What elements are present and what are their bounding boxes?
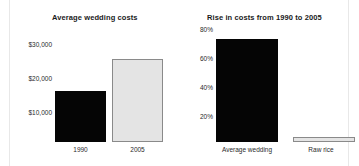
y-axis-labels: 80% 60% 40% 20% xyxy=(185,0,213,166)
y-tick-label: 60% xyxy=(187,55,213,62)
x-tick-label-average-wedding: Average wedding xyxy=(208,146,286,153)
y-tick-label: $10,000 xyxy=(10,109,52,116)
bar-raw-rice[interactable] xyxy=(293,137,355,142)
y-tick-label: $30,000 xyxy=(10,41,52,48)
x-tick-label-1990: 1990 xyxy=(55,146,106,153)
chart-average-wedding-costs: Average wedding costs $30,000 $20,000 $1… xyxy=(0,0,180,166)
y-tick-label: $20,000 xyxy=(10,75,52,82)
y-tick-label: 80% xyxy=(187,26,213,33)
chart-title: Rise in costs from 1990 to 2005 xyxy=(207,13,322,22)
plot-area xyxy=(216,24,346,142)
chart-title: Average wedding costs xyxy=(52,13,138,22)
y-tick-label: 40% xyxy=(187,84,213,91)
figure-canvas: Average wedding costs $30,000 $20,000 $1… xyxy=(0,0,359,166)
y-tick-label: 20% xyxy=(187,113,213,120)
x-tick-label-2005: 2005 xyxy=(112,146,163,153)
bar-average-wedding[interactable] xyxy=(216,39,278,142)
y-axis-labels: $30,000 $20,000 $10,000 xyxy=(8,0,52,166)
chart-rise-in-costs: Rise in costs from 1990 to 2005 80% 60% … xyxy=(180,0,359,166)
plot-area xyxy=(55,30,161,142)
x-tick-label-raw-rice: Raw rice xyxy=(290,146,352,153)
bar-2005[interactable] xyxy=(112,59,163,142)
bar-1990[interactable] xyxy=(55,91,106,142)
